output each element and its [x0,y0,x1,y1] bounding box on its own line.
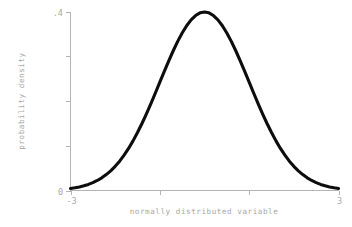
chart-screenshot: .40 -33 normally distributed variable pr… [0,0,352,227]
normal-distribution-chart: .40 -33 normally distributed variable pr… [0,0,352,227]
x-axis-title: normally distributed variable [130,207,279,216]
y-axis-tick-label: 0 [58,187,63,197]
normal-density-curve [71,12,339,189]
y-axis-tick-labels: .40 [53,8,63,197]
y-axis-tick-label: .4 [53,8,63,18]
x-axis-tick-label: -3 [66,196,76,206]
x-axis-ticks [72,191,340,196]
y-axis-title: probability density [17,52,26,149]
y-axis-ticks [66,13,71,192]
x-axis-tick-labels: -33 [66,196,342,206]
x-axis-tick-label: 3 [337,196,342,206]
